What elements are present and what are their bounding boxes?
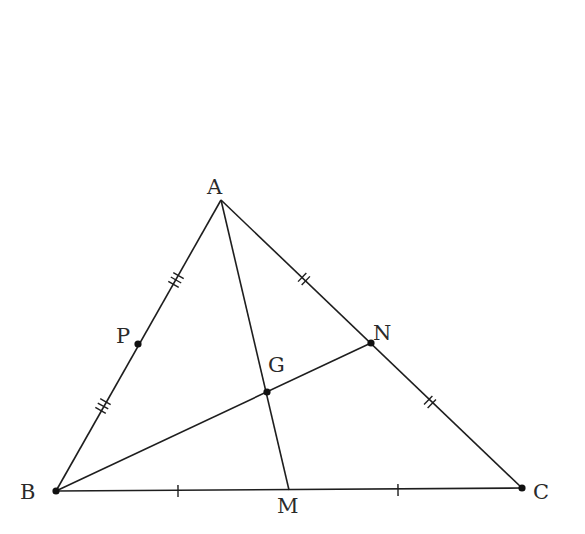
point-P xyxy=(134,340,141,347)
label-M: M xyxy=(277,494,299,518)
median-BN xyxy=(56,343,371,491)
label-A: A xyxy=(206,175,223,199)
labels: A B C M N G P xyxy=(20,175,549,518)
label-N: N xyxy=(373,321,391,345)
label-G: G xyxy=(268,353,285,377)
points xyxy=(52,339,525,494)
median-AM xyxy=(221,200,289,490)
tick-marks xyxy=(95,273,436,497)
label-P: P xyxy=(116,324,130,348)
point-C xyxy=(518,484,525,491)
point-B xyxy=(52,487,59,494)
point-G xyxy=(263,388,270,395)
triangle-diagram: A B C M N G P xyxy=(0,0,585,534)
label-C: C xyxy=(533,480,549,504)
label-B: B xyxy=(20,480,35,504)
